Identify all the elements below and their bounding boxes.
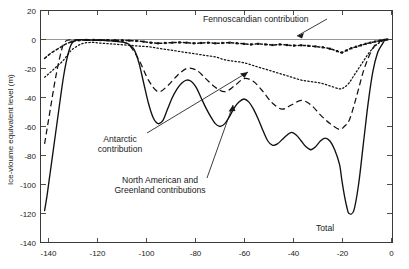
- x-tick-label-minus-120: -120: [89, 249, 106, 258]
- fennoscandian-data-marker: [264, 43, 266, 45]
- x-tick-label-minus-80: -80: [190, 249, 202, 258]
- y-tick-label-minus-140: -140: [20, 239, 37, 248]
- fennoscandian-data-marker: [178, 41, 180, 43]
- fennoscandian-data-marker: [379, 39, 381, 41]
- fennoscandian-data-marker: [186, 42, 188, 44]
- annotation-antarctic-label-line1: Antarctic: [103, 134, 137, 144]
- y-tick-label-minus-100: -100: [20, 181, 37, 190]
- x-tick-label-minus-40: -40: [288, 249, 300, 258]
- fennoscandian-data-marker: [341, 51, 343, 53]
- fennoscandian-data-marker: [221, 42, 223, 44]
- annotation-na-label-line1: North American and: [122, 175, 198, 185]
- fennoscandian-data-marker: [272, 44, 274, 46]
- fennoscandian-data-marker: [355, 46, 357, 48]
- x-tick-label-minus-60: -60: [239, 249, 251, 258]
- fennoscandian-data-marker: [135, 40, 137, 42]
- x-tick-label-minus-20: -20: [337, 249, 349, 258]
- fennoscandian-data-marker: [257, 43, 259, 45]
- fennoscandian-data-marker: [329, 48, 331, 50]
- x-tick-label-minus-140: -140: [40, 249, 57, 258]
- y-tick-label-minus-80: -80: [24, 152, 36, 161]
- fennoscandian-data-marker: [157, 42, 159, 44]
- fennoscandian-data-marker: [322, 46, 324, 48]
- chart-background: [0, 0, 409, 269]
- fennoscandian-data-marker: [286, 44, 288, 46]
- annotation-total-label: Total: [316, 223, 334, 233]
- fennoscandian-data-marker: [360, 44, 362, 46]
- y-tick-label-minus-40: -40: [24, 94, 36, 103]
- fennoscandian-data-marker: [336, 50, 338, 52]
- fennoscandian-data-marker: [314, 45, 316, 47]
- fennoscandian-data-marker: [171, 42, 173, 44]
- fennoscandian-data-marker: [143, 41, 145, 43]
- fennoscandian-data-marker: [346, 49, 348, 51]
- y-axis-title: Ice-vloume equivalent level (m): [6, 74, 15, 185]
- y-tick-label-20: 20: [27, 7, 36, 16]
- fennoscandian-data-marker: [214, 42, 216, 44]
- ice-volume-equivalent-level-chart: 20 0 -20 -40 -60 -80 -100 -120 -140 -140…: [0, 0, 409, 269]
- fennoscandian-data-marker: [350, 47, 352, 49]
- y-tick-label-minus-120: -120: [20, 210, 37, 219]
- fennoscandian-data-marker: [307, 45, 309, 47]
- y-tick-label-0: 0: [32, 36, 37, 45]
- fennoscandian-data-marker: [207, 42, 209, 44]
- x-tick-label-minus-100: -100: [138, 249, 155, 258]
- x-tick-label-0: 0: [389, 249, 394, 258]
- fennoscandian-data-marker: [369, 42, 371, 44]
- y-tick-label-minus-60: -60: [24, 123, 36, 132]
- fennoscandian-data-marker: [250, 43, 252, 45]
- annotation-na-label-line2: Greenland contributions: [114, 185, 205, 195]
- fennoscandian-data-marker: [150, 42, 152, 44]
- fennoscandian-data-marker: [365, 43, 367, 45]
- annotation-fennoscandian-label: Fennoscandian contribution: [203, 14, 309, 24]
- y-tick-label-minus-20: -20: [24, 65, 36, 74]
- fennoscandian-data-marker: [229, 42, 231, 44]
- fennoscandian-data-marker: [243, 43, 245, 45]
- fennoscandian-data-marker: [374, 40, 376, 42]
- fennoscandian-data-marker: [121, 39, 123, 41]
- fennoscandian-data-marker: [128, 40, 130, 42]
- annotation-antarctic-label-line2: contribution: [98, 144, 143, 154]
- fennoscandian-data-marker: [200, 42, 202, 44]
- fennoscandian-data-marker: [236, 42, 238, 44]
- fennoscandian-data-marker: [164, 42, 166, 44]
- fennoscandian-data-marker: [300, 44, 302, 46]
- chart-page: 20 0 -20 -40 -60 -80 -100 -120 -140 -140…: [0, 0, 409, 269]
- fennoscandian-data-marker: [279, 43, 281, 45]
- fennoscandian-data-marker: [193, 42, 195, 44]
- fennoscandian-data-marker: [293, 44, 295, 46]
